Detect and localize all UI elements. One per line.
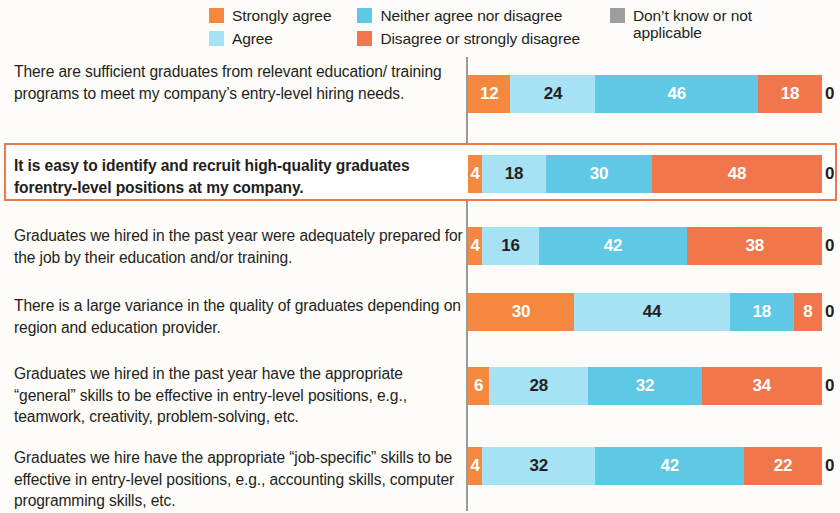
bar-zero-value-label: 0 bbox=[825, 293, 834, 331]
legend-swatch-neither-icon bbox=[357, 8, 372, 23]
bar-zero-value-label: 0 bbox=[825, 155, 834, 193]
bar-segment: 22 bbox=[744, 447, 822, 485]
stacked-bar: 4183048 bbox=[468, 155, 822, 193]
bar-segment: 6 bbox=[468, 367, 489, 405]
bar-segment: 4 bbox=[468, 155, 482, 193]
legend-swatch-dont-know-icon bbox=[610, 8, 625, 23]
bar-segment: 38 bbox=[687, 227, 822, 265]
row-statement-label: Graduates we hired in the past year have… bbox=[14, 363, 464, 428]
bar-segment: 30 bbox=[546, 155, 652, 193]
legend-item-disagree: Disagree or strongly disagree bbox=[357, 30, 580, 49]
legend-item-neither: Neither agree nor disagree bbox=[357, 7, 580, 26]
row-statement-label: There are sufficient graduates from rele… bbox=[14, 61, 464, 104]
row-statement-label: There is a large variance in the quality… bbox=[14, 295, 464, 338]
legend-swatch-agree-icon bbox=[209, 31, 224, 46]
bar-segment: 24 bbox=[510, 75, 595, 113]
bar-segment: 18 bbox=[482, 155, 546, 193]
legend-item-dont-know: Don’t know or not applicable bbox=[610, 7, 763, 26]
stacked-bar-chart: There are sufficient graduates from rele… bbox=[0, 55, 840, 513]
bar-segment: 18 bbox=[758, 75, 822, 113]
bar-segment: 18 bbox=[730, 293, 794, 331]
bar-segment: 42 bbox=[539, 227, 688, 265]
stacked-bar: 4324222 bbox=[468, 447, 822, 485]
row-statement-label: Graduates we hire have the appropriate “… bbox=[14, 447, 464, 512]
legend-column-2: Neither agree nor disagree Disagree or s… bbox=[357, 7, 580, 49]
row-statement-label: It is easy to identify and recruit high-… bbox=[14, 155, 464, 198]
legend-label-dont-know: Don’t know or not applicable bbox=[633, 7, 763, 41]
bar-segment: 28 bbox=[489, 367, 588, 405]
bar-segment: 44 bbox=[574, 293, 730, 331]
stacked-bar: 6283234 bbox=[468, 367, 822, 405]
bar-segment: 4 bbox=[468, 447, 482, 485]
bar-segment: 4 bbox=[468, 227, 482, 265]
legend-item-strongly-agree: Strongly agree bbox=[209, 7, 331, 26]
legend-label-agree: Agree bbox=[232, 30, 273, 47]
bar-segment: 16 bbox=[482, 227, 539, 265]
legend-column-1: Strongly agree Agree bbox=[209, 7, 331, 49]
stacked-bar: 12244618 bbox=[468, 75, 822, 113]
legend-label-neither: Neither agree nor disagree bbox=[380, 7, 562, 24]
legend-column-3: Don’t know or not applicable bbox=[610, 7, 763, 26]
chart-legend: Strongly agree Agree Neither agree nor d… bbox=[0, 0, 840, 55]
bar-segment: 8 bbox=[794, 293, 822, 331]
chart-axis-line bbox=[466, 57, 468, 511]
legend-swatch-strongly-agree-icon bbox=[209, 8, 224, 23]
legend-item-agree: Agree bbox=[209, 30, 331, 49]
bar-segment: 30 bbox=[468, 293, 574, 331]
bar-zero-value-label: 0 bbox=[825, 227, 834, 265]
legend-label-disagree: Disagree or strongly disagree bbox=[380, 30, 580, 47]
bar-segment: 32 bbox=[482, 447, 595, 485]
legend-label-strongly-agree: Strongly agree bbox=[232, 7, 331, 24]
bar-segment: 12 bbox=[468, 75, 510, 113]
bar-segment: 46 bbox=[595, 75, 758, 113]
bar-zero-value-label: 0 bbox=[825, 367, 834, 405]
bar-zero-value-label: 0 bbox=[825, 75, 834, 113]
bar-segment: 34 bbox=[702, 367, 822, 405]
bar-zero-value-label: 0 bbox=[825, 447, 834, 485]
bar-segment: 48 bbox=[652, 155, 822, 193]
row-statement-label: Graduates we hired in the past year were… bbox=[14, 225, 464, 268]
bar-segment: 32 bbox=[588, 367, 701, 405]
stacked-bar: 4164238 bbox=[468, 227, 822, 265]
stacked-bar: 3044188 bbox=[468, 293, 822, 331]
bar-segment: 42 bbox=[595, 447, 744, 485]
legend-swatch-disagree-icon bbox=[357, 31, 372, 46]
